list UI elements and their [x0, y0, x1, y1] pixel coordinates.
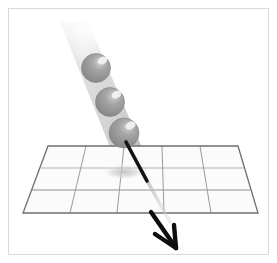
arrow-head-right-barb — [174, 225, 176, 248]
particle-3 — [109, 118, 139, 148]
particle-1 — [82, 54, 111, 83]
grid-surface — [23, 146, 258, 213]
particle-2 — [96, 88, 125, 117]
particle-beam-diagram: Particle beam incident on a grid plane — [0, 0, 277, 263]
figure-root: Particle beam incident on a grid plane — [0, 0, 277, 263]
grid-plane — [23, 146, 258, 213]
